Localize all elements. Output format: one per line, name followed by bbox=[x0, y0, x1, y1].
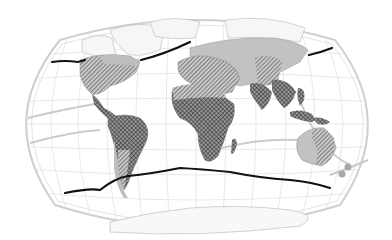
north-boundary-line-west bbox=[52, 60, 85, 62]
world-map bbox=[0, 0, 392, 240]
